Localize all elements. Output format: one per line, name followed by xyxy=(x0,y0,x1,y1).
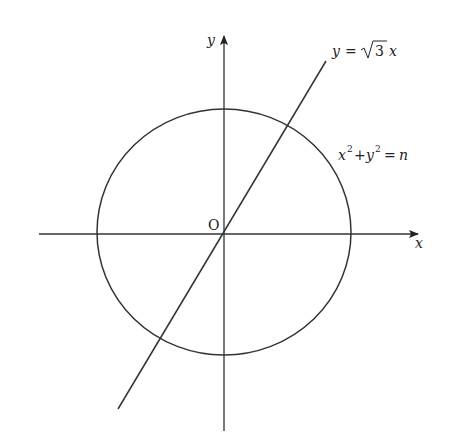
svg-text:2: 2 xyxy=(347,144,353,154)
svg-text:=: = xyxy=(345,43,357,59)
svg-text:3: 3 xyxy=(375,43,384,59)
svg-text:=: = xyxy=(384,147,396,163)
line-equation-label: y = 3 x xyxy=(331,41,397,59)
svg-text:y: y xyxy=(365,147,375,163)
svg-text:+: + xyxy=(354,147,366,163)
line-curve xyxy=(118,61,326,409)
origin-label: O xyxy=(208,217,219,233)
x-axis-label: x xyxy=(415,235,423,251)
circle-equation-label: x 2 + y 2 = n xyxy=(338,144,408,163)
svg-text:x: x xyxy=(389,43,397,59)
coordinate-diagram: y x O y = 3 x x 2 + y 2 = n xyxy=(0,0,453,448)
svg-text:n: n xyxy=(399,147,408,163)
svg-text:x: x xyxy=(338,147,346,163)
y-axis-label: y xyxy=(206,32,216,48)
svg-text:2: 2 xyxy=(375,144,381,154)
svg-text:y: y xyxy=(331,43,341,59)
